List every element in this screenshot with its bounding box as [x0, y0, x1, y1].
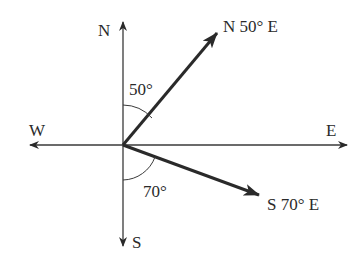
label-bearing-s70e: S 70° E [267, 195, 319, 214]
label-west: W [29, 121, 46, 140]
label-south: S [132, 233, 141, 252]
label-angle-50: 50° [129, 80, 153, 99]
label-north: N [98, 21, 110, 40]
label-bearing-n50e: N 50° E [223, 17, 278, 36]
angle-arc-70 [123, 157, 155, 180]
label-east: E [326, 121, 336, 140]
label-angle-70: 70° [143, 182, 167, 201]
compass-diagram: N S E W N 50° E S 70° E 50° 70° [0, 0, 360, 265]
